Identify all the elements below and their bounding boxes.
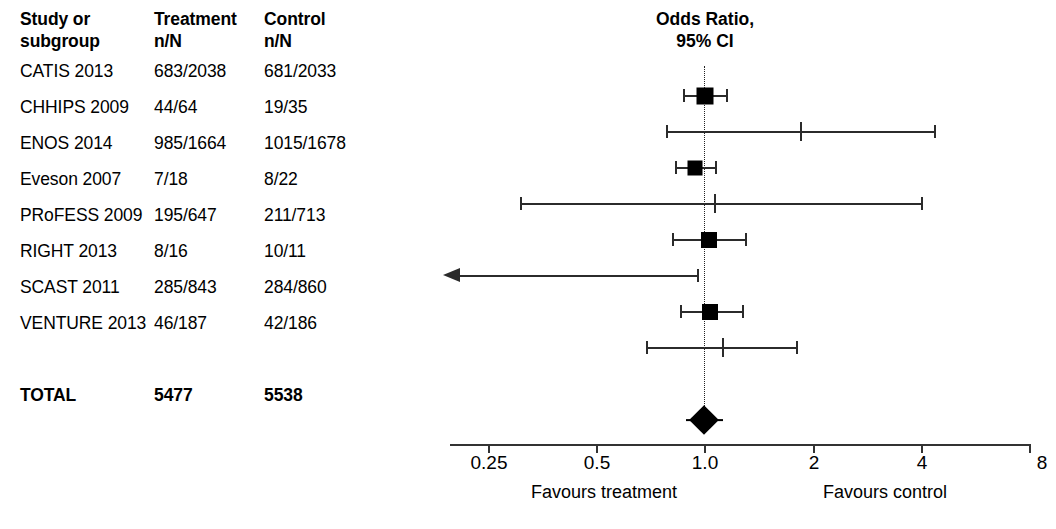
treatment-value: 195/647 — [154, 204, 264, 226]
control-value: 10/11 — [264, 240, 404, 262]
table-row: CATIS 2013 683/2038 681/2033 — [20, 60, 440, 96]
confidence-interval-line — [675, 167, 716, 169]
treatment-value: 985/1664 — [154, 132, 264, 154]
axis-tick — [1029, 444, 1031, 453]
total-treatment-value: 5477 — [154, 384, 264, 406]
axis-tick — [596, 444, 598, 453]
axis-tick-label: 0.25 — [471, 452, 508, 474]
effect-estimate-marker — [722, 338, 724, 357]
ci-cap-right — [934, 125, 936, 138]
control-value: 42/186 — [264, 312, 404, 334]
ci-cap-right — [745, 233, 747, 246]
table-row: Eveson 2007 7/18 8/22 — [20, 168, 440, 204]
axis-tick-label: 1.0 — [692, 452, 718, 474]
total-control-value: 5538 — [264, 384, 404, 406]
table-header-row: Study or subgroup Treatment n/N Control … — [20, 8, 440, 60]
study-label: PRoFESS 2009 — [20, 204, 154, 226]
total-label: TOTAL — [20, 384, 154, 406]
summary-diamond — [689, 405, 719, 435]
confidence-interval-line — [672, 239, 746, 241]
ci-cap-right — [697, 269, 699, 282]
table-spacer — [20, 348, 440, 384]
favours-treatment-label: Favours treatment — [531, 482, 677, 503]
study-label: CATIS 2013 — [20, 60, 154, 82]
control-value: 284/860 — [264, 276, 404, 298]
axis-tick — [488, 444, 490, 453]
control-value: 211/713 — [264, 204, 404, 226]
confidence-interval-line — [646, 347, 797, 349]
table-row: PRoFESS 2009 195/647 211/713 — [20, 204, 440, 240]
effect-estimate-box — [701, 232, 717, 248]
favours-control-label: Favours control — [823, 482, 947, 503]
column-header-control: Control n/N — [264, 8, 404, 52]
effect-estimate-box — [697, 88, 714, 105]
ci-cap-right — [796, 341, 798, 354]
axis-tick-label: 8 — [1037, 452, 1048, 474]
axis-tick — [704, 444, 706, 453]
ci-cap-left — [680, 305, 682, 318]
study-label: RIGHT 2013 — [20, 240, 154, 262]
study-label: ENOS 2014 — [20, 132, 154, 154]
table-row: ENOS 2014 985/1664 1015/1678 — [20, 132, 440, 168]
null-effect-line — [704, 66, 705, 422]
ci-cap-left — [672, 233, 674, 246]
x-axis-line — [450, 444, 1030, 446]
column-header-study: Study or subgroup — [20, 8, 154, 52]
axis-tick — [921, 444, 923, 453]
confidence-interval-line — [683, 95, 727, 97]
control-value: 681/2033 — [264, 60, 404, 82]
treatment-value: 285/843 — [154, 276, 264, 298]
ci-cap-left — [646, 341, 648, 354]
ci-cap-left — [683, 89, 685, 102]
effect-estimate-box — [702, 304, 718, 320]
table-total-row: TOTAL 5477 5538 — [20, 384, 440, 420]
effect-estimate-marker — [800, 122, 802, 141]
axis-tick — [813, 444, 815, 453]
forest-plot-figure: Study or subgroup Treatment n/N Control … — [0, 0, 1056, 529]
control-value: 8/22 — [264, 168, 404, 190]
treatment-value: 7/18 — [154, 168, 264, 190]
confidence-interval-line — [460, 275, 698, 277]
effect-estimate-box — [688, 161, 703, 176]
treatment-value: 46/187 — [154, 312, 264, 334]
treatment-value: 683/2038 — [154, 60, 264, 82]
table-row: RIGHT 2013 8/16 10/11 — [20, 240, 440, 276]
summary-whisker-left — [686, 419, 700, 421]
ci-cap-right — [715, 161, 717, 174]
control-value: 19/35 — [264, 96, 404, 118]
axis-tick-label: 4 — [917, 452, 928, 474]
ci-cap-right — [921, 197, 923, 210]
axis-tick-label: 0.5 — [584, 452, 610, 474]
table-row: VENTURE 2013 46/187 42/186 — [20, 312, 440, 348]
ci-cap-left — [675, 161, 677, 174]
study-label: Eveson 2007 — [20, 168, 154, 190]
column-header-treatment: Treatment n/N — [154, 8, 264, 52]
arrow-left-icon — [443, 268, 460, 282]
ci-cap-right — [742, 305, 744, 318]
ci-cap-left — [666, 125, 668, 138]
confidence-interval-line — [666, 131, 935, 133]
control-value: 1015/1678 — [264, 132, 404, 154]
study-label: CHHIPS 2009 — [20, 96, 154, 118]
axis-tick-label: 2 — [809, 452, 820, 474]
table-row: CHHIPS 2009 44/64 19/35 — [20, 96, 440, 132]
table-row: SCAST 2011 285/843 284/860 — [20, 276, 440, 312]
confidence-interval-line — [680, 311, 743, 313]
study-table: Study or subgroup Treatment n/N Control … — [20, 8, 440, 420]
ci-cap-left — [520, 197, 522, 210]
study-label: VENTURE 2013 — [20, 312, 154, 334]
ci-cap-right — [726, 89, 728, 102]
confidence-interval-line — [520, 203, 922, 205]
plot-title: Odds Ratio, 95% CI — [530, 8, 880, 52]
treatment-value: 44/64 — [154, 96, 264, 118]
summary-whisker-right — [709, 419, 723, 421]
treatment-value: 8/16 — [154, 240, 264, 262]
effect-estimate-marker — [714, 194, 716, 213]
study-label: SCAST 2011 — [20, 276, 154, 298]
